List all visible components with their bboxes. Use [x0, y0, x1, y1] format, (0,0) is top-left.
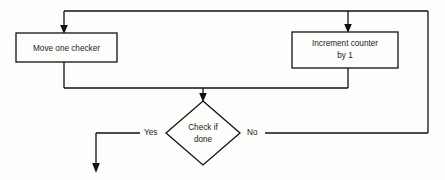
- node-increment-counter-label-line1: Increment counter: [312, 39, 378, 48]
- node-increment-counter-label-line2: by 1: [337, 51, 353, 60]
- arrowhead-yes-exit: [92, 163, 100, 173]
- node-check-if-done[interactable]: [166, 101, 240, 165]
- node-increment-counter[interactable]: [292, 32, 398, 68]
- flowchart-canvas: Move one checker Increment counter by 1 …: [0, 0, 445, 180]
- node-check-if-done-label-line2: done: [194, 135, 213, 144]
- edge-label-yes: Yes: [144, 128, 157, 137]
- node-check-if-done-label-line1: Check if: [188, 123, 218, 132]
- flowchart-diagram: Move one checker Increment counter by 1 …: [0, 0, 445, 180]
- node-move-checker-label: Move one checker: [33, 44, 100, 53]
- edge-label-no: No: [247, 128, 258, 137]
